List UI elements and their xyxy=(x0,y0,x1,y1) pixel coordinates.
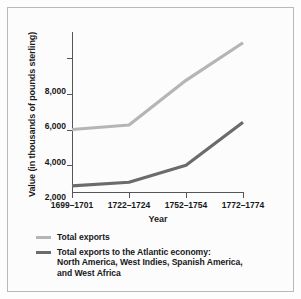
x-tick-label-1772-1774: 1772–1774 xyxy=(213,200,273,210)
x-tick-1772-1774 xyxy=(243,193,244,198)
x-axis-title: Year xyxy=(72,214,244,224)
x-tick-label-1752-1754: 1752–1754 xyxy=(156,200,216,210)
line-atlantic-economy xyxy=(72,122,243,186)
line-total-exports xyxy=(72,43,243,130)
y-tick-label-4000: 4,000 xyxy=(45,157,66,167)
x-axis-tick-labels: 1699–1701 1722–1724 1752–1754 1772–1774 xyxy=(46,200,274,214)
legend-swatch-total-exports xyxy=(36,236,51,239)
legend-label-line-3: and West Africa xyxy=(57,268,243,279)
x-tick-1752-1754 xyxy=(186,193,187,198)
series-lines xyxy=(72,32,244,193)
x-tick-label-1722-1724: 1722–1724 xyxy=(99,200,159,210)
legend-label-line-1: Total exports xyxy=(57,232,110,243)
y-tick-label-6000: 6,000 xyxy=(45,121,66,131)
legend-label-atlantic-economy: Total exports to the Atlantic economy: N… xyxy=(57,247,243,279)
y-tick-label-8000: 8,000 xyxy=(45,86,66,96)
y-axis-tick-labels: 8,000 6,000 4,000 2,000 xyxy=(28,32,66,193)
chart-figure: Value (in thousands of pounds sterling) … xyxy=(0,0,301,299)
x-tick-1699-1701 xyxy=(72,193,73,198)
legend-label-line-2: North America, West Indies, Spanish Amer… xyxy=(57,257,243,268)
legend-item-total-exports: Total exports xyxy=(36,232,288,243)
x-tick-1722-1724 xyxy=(129,193,130,198)
legend-swatch-atlantic-economy xyxy=(36,251,51,254)
legend-item-atlantic-economy: Total exports to the Atlantic economy: N… xyxy=(36,247,288,279)
legend-label-line-1: Total exports to the Atlantic economy: xyxy=(57,247,243,258)
x-axis-ticks xyxy=(72,193,244,199)
chart-legend: Total exports Total exports to the Atlan… xyxy=(36,232,288,282)
x-tick-label-1699-1701: 1699–1701 xyxy=(42,200,102,210)
legend-label-total-exports: Total exports xyxy=(57,232,110,243)
plot-area xyxy=(72,32,244,192)
